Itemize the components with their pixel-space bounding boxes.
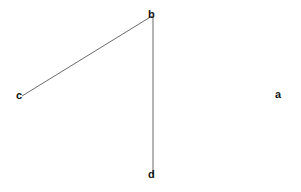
vertex-label-d: d <box>148 170 155 181</box>
vertex-label-a: a <box>275 90 281 101</box>
diagram-canvas: b c d a <box>0 0 301 192</box>
vertex-label-b: b <box>148 10 155 21</box>
vertex-label-c: c <box>16 91 22 102</box>
segment-cb <box>22 16 152 96</box>
diagram-lines <box>0 0 301 192</box>
